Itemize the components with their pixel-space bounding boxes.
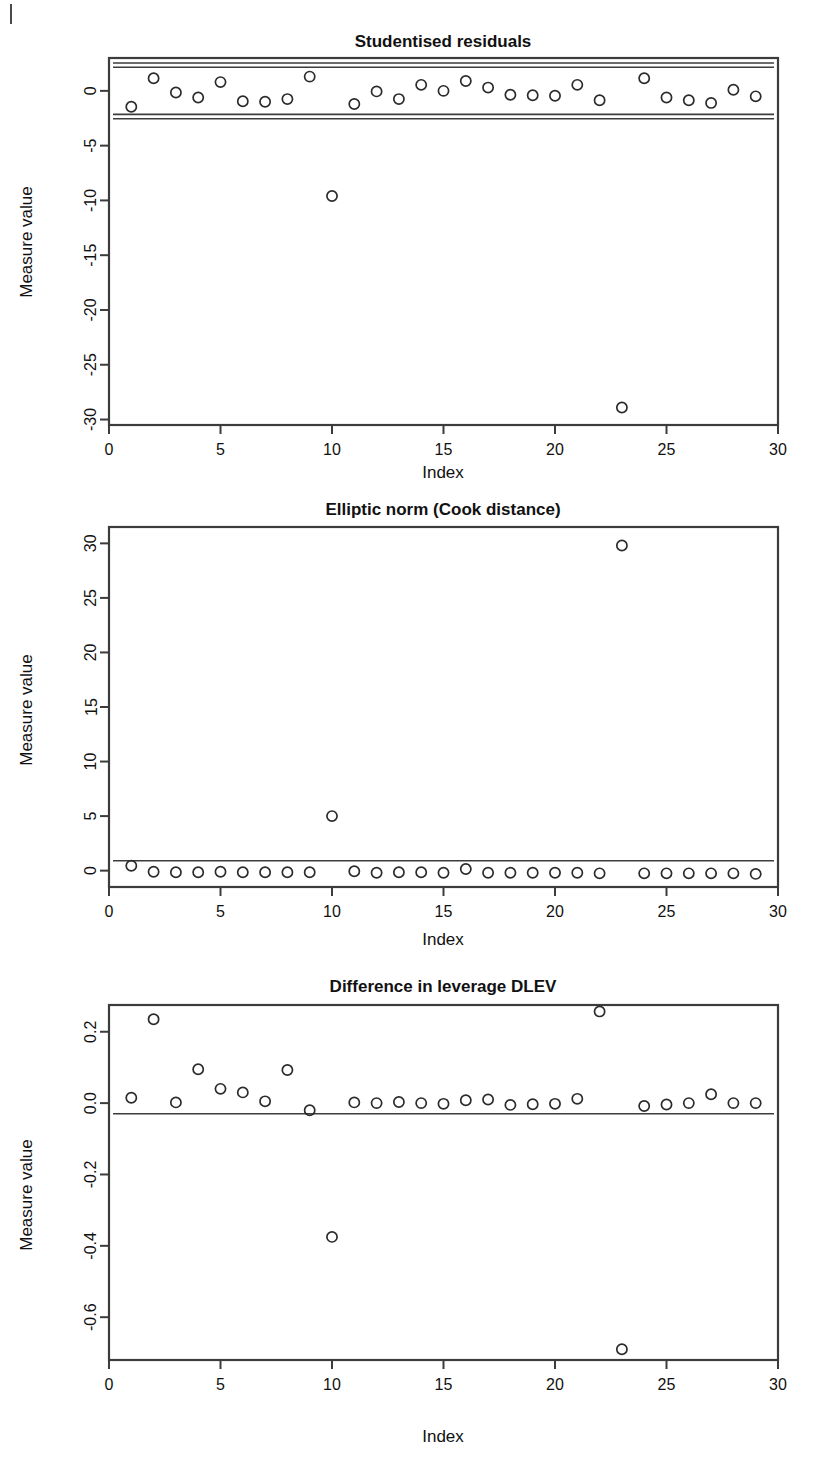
data-point: [751, 1098, 761, 1108]
x-tick-label: 10: [323, 441, 341, 458]
data-point: [282, 94, 292, 104]
data-point: [327, 1232, 337, 1242]
x-tick-label: 25: [658, 441, 676, 458]
data-point: [126, 102, 136, 112]
x-axis-ticks-3: 051015202530: [105, 1360, 787, 1393]
x-tick-label: 30: [769, 441, 787, 458]
y-tick-label: -10: [83, 189, 100, 212]
x-tick-label: 0: [105, 903, 114, 920]
chart-ylabel-2: Measure value: [17, 654, 36, 766]
data-point: [349, 866, 359, 876]
data-point: [706, 1089, 716, 1099]
data-point: [661, 1099, 671, 1109]
data-point: [171, 87, 181, 97]
data-point: [550, 91, 560, 101]
data-point: [505, 868, 515, 878]
y-tick-label: -0.4: [83, 1232, 100, 1260]
data-point: [483, 82, 493, 92]
chart-xlabel-3: Index: [422, 1427, 464, 1446]
y-tick-label: 25: [83, 589, 100, 607]
x-tick-label: 0: [105, 1376, 114, 1393]
plot-frame-1: [109, 58, 778, 425]
y-tick-label: -20: [83, 298, 100, 321]
data-point: [238, 1087, 248, 1097]
data-point: [461, 1095, 471, 1105]
data-point: [595, 95, 605, 105]
data-point: [416, 80, 426, 90]
y-tick-label: -0.6: [83, 1303, 100, 1331]
data-point: [149, 867, 159, 877]
data-point: [528, 868, 538, 878]
data-point: [728, 85, 738, 95]
data-point: [349, 99, 359, 109]
y-tick-label: 20: [83, 643, 100, 661]
x-tick-label: 15: [435, 903, 453, 920]
y-tick-label: 10: [83, 753, 100, 771]
data-points-3: [126, 1006, 761, 1354]
chart-xlabel-1: Index: [422, 463, 464, 482]
data-point: [171, 867, 181, 877]
data-point: [149, 73, 159, 83]
data-point: [171, 1097, 181, 1107]
data-point: [327, 191, 337, 201]
data-point: [706, 868, 716, 878]
data-point: [126, 861, 136, 871]
x-tick-label: 0: [105, 441, 114, 458]
data-point: [461, 76, 471, 86]
x-tick-label: 5: [216, 1376, 225, 1393]
data-point: [505, 1100, 515, 1110]
x-tick-label: 25: [658, 903, 676, 920]
data-point: [438, 1099, 448, 1109]
data-point: [215, 867, 225, 877]
x-tick-label: 10: [323, 1376, 341, 1393]
x-axis-ticks-2: 051015202530: [105, 887, 787, 920]
data-point: [238, 96, 248, 106]
data-point: [617, 1344, 627, 1354]
data-point: [282, 867, 292, 877]
y-axis-ticks-2: 051015202530: [83, 534, 110, 875]
data-point: [260, 1096, 270, 1106]
x-tick-label: 25: [658, 1376, 676, 1393]
data-point: [394, 867, 404, 877]
x-tick-label: 5: [216, 441, 225, 458]
x-axis-ticks-1: 051015202530: [105, 425, 787, 458]
data-point: [751, 91, 761, 101]
data-point: [550, 1099, 560, 1109]
data-point: [305, 867, 315, 877]
data-point: [215, 77, 225, 87]
y-tick-label: 0: [83, 86, 100, 95]
data-point: [282, 1065, 292, 1075]
chart-svg-1: Studentised residuals Index Measure valu…: [0, 0, 826, 490]
data-point: [349, 1097, 359, 1107]
data-point: [639, 868, 649, 878]
data-point: [751, 869, 761, 879]
plot-frame-3: [109, 1005, 778, 1360]
chart-panel-studentised-residuals: Studentised residuals Index Measure valu…: [0, 0, 826, 490]
y-axis-ticks-3: 0.20.0-0.2-0.4-0.6: [83, 1021, 110, 1331]
data-point: [684, 868, 694, 878]
chart-xlabel-2: Index: [422, 930, 464, 949]
data-point: [617, 402, 627, 412]
x-tick-label: 30: [769, 1376, 787, 1393]
data-point: [528, 90, 538, 100]
y-tick-label: -5: [83, 138, 100, 152]
y-tick-label: -0.2: [83, 1161, 100, 1189]
chart-title-3: Difference in leverage DLEV: [330, 977, 557, 996]
chart-ylabel-1: Measure value: [17, 186, 36, 298]
data-point: [595, 868, 605, 878]
data-points-2: [126, 540, 761, 879]
data-point: [372, 1098, 382, 1108]
data-point: [595, 1006, 605, 1016]
y-tick-label: 15: [83, 698, 100, 716]
y-tick-label: -30: [83, 408, 100, 431]
data-point: [126, 1093, 136, 1103]
y-tick-label: -25: [83, 353, 100, 376]
data-point: [706, 98, 716, 108]
data-point: [394, 1097, 404, 1107]
data-point: [661, 868, 671, 878]
data-point: [728, 868, 738, 878]
x-tick-label: 30: [769, 903, 787, 920]
data-point: [461, 864, 471, 874]
data-point: [528, 1099, 538, 1109]
data-point: [505, 90, 515, 100]
